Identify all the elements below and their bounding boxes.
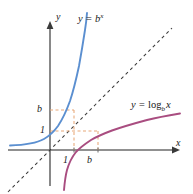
curve-exponential <box>10 13 87 146</box>
exponent-x: x <box>100 12 103 20</box>
guide-lines-group <box>50 110 98 150</box>
tick-label-y-1: 1 <box>40 125 45 135</box>
curve-label-logarithmic: y = logb x <box>131 100 171 111</box>
figure-canvas <box>0 0 193 194</box>
curve-logarithmic <box>64 114 180 191</box>
tick-label-x-1: 1 <box>63 155 68 165</box>
y-axis-label: y <box>56 12 60 22</box>
tick-label-x-b: b <box>87 155 92 165</box>
y-axis-arrowhead <box>47 21 54 29</box>
curve-label-exponential: y = bx <box>78 14 103 25</box>
x-axis-label: x <box>176 138 180 148</box>
log-base: b <box>161 105 165 113</box>
math-figure: y = bx y = logb x y x b 1 1 b <box>0 0 193 194</box>
tick-label-y-b: b <box>37 104 42 114</box>
log-function-name: log <box>148 99 161 110</box>
log-argument: x <box>166 99 171 110</box>
